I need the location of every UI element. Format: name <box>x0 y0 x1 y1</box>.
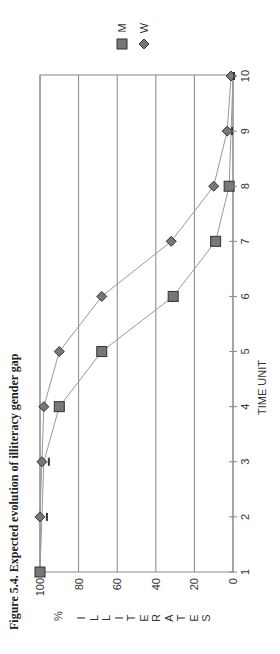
y-tick-label: 80 <box>73 578 85 590</box>
y-label-letter: T <box>175 614 187 621</box>
series-markers <box>35 71 236 577</box>
legend-label-w: W <box>138 22 150 33</box>
y-label-letter: E <box>188 614 200 621</box>
marker-m <box>168 291 178 301</box>
y-label-letter: I <box>113 616 125 619</box>
chart: Figure 5.4. Expected evolution of illite… <box>0 0 280 654</box>
grid <box>40 75 233 572</box>
y-label-letter: E <box>138 614 150 621</box>
x-tick-label: 6 <box>239 293 251 299</box>
marker-w <box>97 291 107 301</box>
plot-area-border <box>40 75 233 572</box>
y-label-letter: L <box>88 615 100 621</box>
x-tick-label: 4 <box>239 404 251 410</box>
y-label-letter: I <box>75 616 87 619</box>
x-tick-label: 7 <box>239 238 251 244</box>
marker-m <box>211 236 221 246</box>
marker-w <box>35 512 45 522</box>
marker-m <box>97 347 107 357</box>
marker-w <box>209 181 219 191</box>
y-label-letter: L <box>100 615 112 621</box>
legend: MW <box>116 22 150 49</box>
marker-w <box>54 347 64 357</box>
axis-ticks: 02040608010012345678910 <box>34 70 251 596</box>
y-label-letter: R <box>150 614 162 622</box>
y-label-letter: T <box>125 614 137 621</box>
y-axis-label: %ILLITERATES <box>52 611 212 622</box>
x-tick-label: 9 <box>239 128 251 134</box>
marker-m <box>35 567 45 577</box>
x-tick-label: 2 <box>239 514 251 520</box>
series-line-m <box>40 76 233 572</box>
x-tick-label: 1 <box>239 569 251 575</box>
x-tick-label: 3 <box>239 459 251 465</box>
y-tick-label: 0 <box>227 578 239 584</box>
marker-m-dash <box>48 458 50 466</box>
x-tick-label: 10 <box>239 70 251 82</box>
y-tick-label: 100 <box>34 578 46 596</box>
marker-m <box>54 402 64 412</box>
marker-w <box>166 236 176 246</box>
y-label-letter: A <box>163 614 175 622</box>
legend-marker-w <box>139 39 149 49</box>
figure-caption: Figure 5.4. Expected evolution of illite… <box>7 353 21 630</box>
series-lines <box>40 76 233 572</box>
x-tick-label: 5 <box>239 348 251 354</box>
legend-label-m: M <box>116 23 128 32</box>
series-line-w <box>40 76 231 572</box>
y-label-letter: S <box>200 614 212 621</box>
x-axis-label: TIME UNIT <box>256 360 268 415</box>
y-tick-label: 60 <box>111 578 123 590</box>
y-label-percent: % <box>52 611 64 621</box>
marker-w <box>37 457 47 467</box>
x-tick-label: 8 <box>239 183 251 189</box>
y-tick-label: 20 <box>188 578 200 590</box>
y-tick-label: 40 <box>150 578 162 590</box>
marker-m-dash <box>46 513 48 521</box>
legend-marker-m <box>117 39 127 49</box>
